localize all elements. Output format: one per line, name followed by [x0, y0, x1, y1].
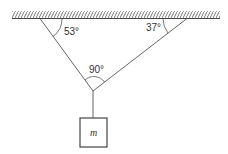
angle-label-90: 90°	[89, 64, 104, 75]
right-rope	[93, 19, 187, 92]
angle-arc-right	[163, 19, 168, 34]
angle-arc-junction	[85, 76, 105, 82]
diagram-canvas: 53° 37° 90° m	[0, 0, 228, 154]
ceiling	[12, 11, 220, 19]
angle-label-53: 53°	[64, 26, 79, 37]
angle-arc-left	[53, 19, 62, 37]
mass-label: m	[90, 127, 97, 138]
angle-label-37: 37°	[146, 22, 161, 33]
